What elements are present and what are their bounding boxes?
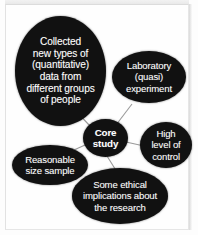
high-level-of-control-node[interactable]: High level of control	[140, 122, 192, 168]
mind-map-canvas: Collected new types of (quantitative) da…	[0, 0, 198, 235]
core-study-node[interactable]: Core study	[83, 119, 128, 157]
diagram-page: Collected new types of (quantitative) da…	[0, 0, 198, 235]
ethical-implications-node[interactable]: Some ethical implications about the rese…	[72, 168, 168, 224]
collected-data-node[interactable]: Collected new types of (quantitative) da…	[15, 16, 106, 126]
laboratory-experiment-node[interactable]: Laboratory (quasi) experiment	[112, 51, 186, 103]
reasonable-size-sample-label: Reasonable size sample	[12, 154, 88, 176]
ethical-implications-label: Some ethical implications about the rese…	[72, 179, 168, 212]
high-level-of-control-label: High level of control	[140, 128, 192, 161]
collected-data-label: Collected new types of (quantitative) da…	[15, 36, 106, 106]
core-study-label: Core study	[83, 127, 128, 150]
laboratory-experiment-label: Laboratory (quasi) experiment	[112, 60, 186, 93]
